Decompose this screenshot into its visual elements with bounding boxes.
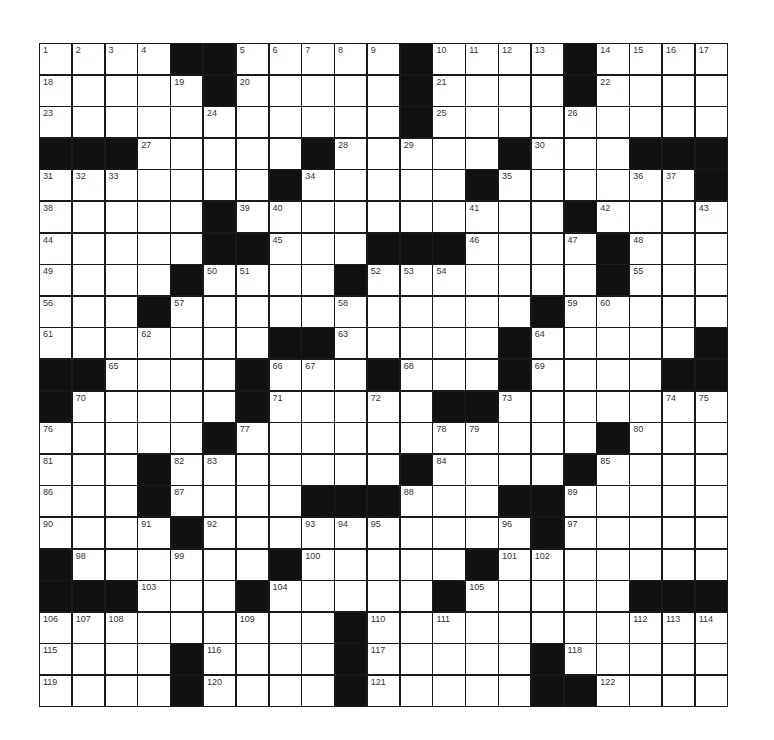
grid-cell[interactable] bbox=[171, 202, 202, 232]
grid-cell[interactable] bbox=[433, 170, 464, 200]
grid-cell[interactable] bbox=[597, 139, 628, 169]
grid-cell[interactable] bbox=[532, 455, 563, 485]
grid-cell[interactable] bbox=[532, 423, 563, 453]
grid-cell[interactable]: 95 bbox=[368, 518, 399, 548]
grid-cell[interactable] bbox=[106, 676, 137, 706]
grid-cell[interactable] bbox=[270, 455, 301, 485]
grid-cell[interactable]: 25 bbox=[433, 107, 464, 137]
grid-cell[interactable] bbox=[270, 265, 301, 295]
grid-cell[interactable] bbox=[401, 613, 432, 643]
grid-cell[interactable] bbox=[106, 76, 137, 106]
grid-cell[interactable]: 17 bbox=[696, 44, 727, 74]
grid-cell[interactable]: 91 bbox=[138, 518, 169, 548]
grid-cell[interactable] bbox=[663, 234, 694, 264]
grid-cell[interactable] bbox=[204, 170, 235, 200]
grid-cell[interactable] bbox=[171, 170, 202, 200]
grid-cell[interactable] bbox=[73, 265, 104, 295]
grid-cell[interactable] bbox=[204, 581, 235, 611]
grid-cell[interactable] bbox=[204, 297, 235, 327]
grid-cell[interactable] bbox=[73, 202, 104, 232]
grid-cell[interactable] bbox=[630, 518, 661, 548]
grid-cell[interactable] bbox=[302, 107, 333, 137]
grid-cell[interactable]: 42 bbox=[597, 202, 628, 232]
grid-cell[interactable] bbox=[499, 613, 530, 643]
grid-cell[interactable] bbox=[335, 234, 366, 264]
grid-cell[interactable]: 108 bbox=[106, 613, 137, 643]
grid-cell[interactable] bbox=[302, 234, 333, 264]
grid-cell[interactable]: 35 bbox=[499, 170, 530, 200]
grid-cell[interactable] bbox=[302, 392, 333, 422]
grid-cell[interactable]: 77 bbox=[237, 423, 268, 453]
grid-cell[interactable]: 60 bbox=[597, 297, 628, 327]
grid-cell[interactable] bbox=[565, 360, 596, 390]
grid-cell[interactable] bbox=[302, 297, 333, 327]
grid-cell[interactable] bbox=[433, 518, 464, 548]
grid-cell[interactable] bbox=[532, 202, 563, 232]
grid-cell[interactable] bbox=[630, 392, 661, 422]
grid-cell[interactable] bbox=[663, 486, 694, 516]
grid-cell[interactable] bbox=[302, 76, 333, 106]
grid-cell[interactable] bbox=[106, 234, 137, 264]
grid-cell[interactable] bbox=[302, 423, 333, 453]
grid-cell[interactable]: 111 bbox=[433, 613, 464, 643]
grid-cell[interactable]: 97 bbox=[565, 518, 596, 548]
grid-cell[interactable] bbox=[401, 328, 432, 358]
grid-cell[interactable] bbox=[171, 107, 202, 137]
grid-cell[interactable]: 54 bbox=[433, 265, 464, 295]
grid-cell[interactable] bbox=[630, 644, 661, 674]
grid-cell[interactable]: 113 bbox=[663, 613, 694, 643]
grid-cell[interactable] bbox=[663, 423, 694, 453]
grid-cell[interactable] bbox=[302, 676, 333, 706]
grid-cell[interactable] bbox=[106, 423, 137, 453]
grid-cell[interactable] bbox=[466, 265, 497, 295]
grid-cell[interactable]: 50 bbox=[204, 265, 235, 295]
grid-cell[interactable] bbox=[237, 676, 268, 706]
grid-cell[interactable] bbox=[237, 328, 268, 358]
grid-cell[interactable]: 5 bbox=[237, 44, 268, 74]
grid-cell[interactable] bbox=[368, 581, 399, 611]
grid-cell[interactable] bbox=[696, 644, 727, 674]
grid-cell[interactable]: 24 bbox=[204, 107, 235, 137]
grid-cell[interactable] bbox=[597, 392, 628, 422]
grid-cell[interactable] bbox=[565, 265, 596, 295]
grid-cell[interactable]: 104 bbox=[270, 581, 301, 611]
grid-cell[interactable] bbox=[401, 581, 432, 611]
grid-cell[interactable]: 48 bbox=[630, 234, 661, 264]
grid-cell[interactable] bbox=[696, 107, 727, 137]
grid-cell[interactable]: 41 bbox=[466, 202, 497, 232]
grid-cell[interactable] bbox=[73, 328, 104, 358]
grid-cell[interactable]: 63 bbox=[335, 328, 366, 358]
grid-cell[interactable]: 10 bbox=[433, 44, 464, 74]
grid-cell[interactable]: 118 bbox=[565, 644, 596, 674]
grid-cell[interactable] bbox=[433, 550, 464, 580]
grid-cell[interactable] bbox=[335, 202, 366, 232]
grid-cell[interactable] bbox=[401, 202, 432, 232]
grid-cell[interactable]: 68 bbox=[401, 360, 432, 390]
grid-cell[interactable] bbox=[499, 202, 530, 232]
grid-cell[interactable]: 56 bbox=[40, 297, 71, 327]
grid-cell[interactable] bbox=[565, 613, 596, 643]
grid-cell[interactable] bbox=[106, 328, 137, 358]
grid-cell[interactable]: 103 bbox=[138, 581, 169, 611]
grid-cell[interactable]: 78 bbox=[433, 423, 464, 453]
grid-cell[interactable]: 82 bbox=[171, 455, 202, 485]
grid-cell[interactable]: 90 bbox=[40, 518, 71, 548]
grid-cell[interactable]: 47 bbox=[565, 234, 596, 264]
grid-cell[interactable] bbox=[368, 202, 399, 232]
grid-cell[interactable]: 70 bbox=[73, 392, 104, 422]
grid-cell[interactable]: 58 bbox=[335, 297, 366, 327]
grid-cell[interactable] bbox=[270, 297, 301, 327]
grid-cell[interactable] bbox=[270, 486, 301, 516]
grid-cell[interactable] bbox=[433, 139, 464, 169]
grid-cell[interactable] bbox=[302, 613, 333, 643]
grid-cell[interactable] bbox=[499, 676, 530, 706]
grid-cell[interactable]: 33 bbox=[106, 170, 137, 200]
grid-cell[interactable] bbox=[335, 170, 366, 200]
grid-cell[interactable] bbox=[696, 518, 727, 548]
grid-cell[interactable] bbox=[204, 328, 235, 358]
grid-cell[interactable] bbox=[401, 550, 432, 580]
grid-cell[interactable] bbox=[237, 455, 268, 485]
grid-cell[interactable]: 80 bbox=[630, 423, 661, 453]
grid-cell[interactable]: 98 bbox=[73, 550, 104, 580]
grid-cell[interactable] bbox=[138, 265, 169, 295]
